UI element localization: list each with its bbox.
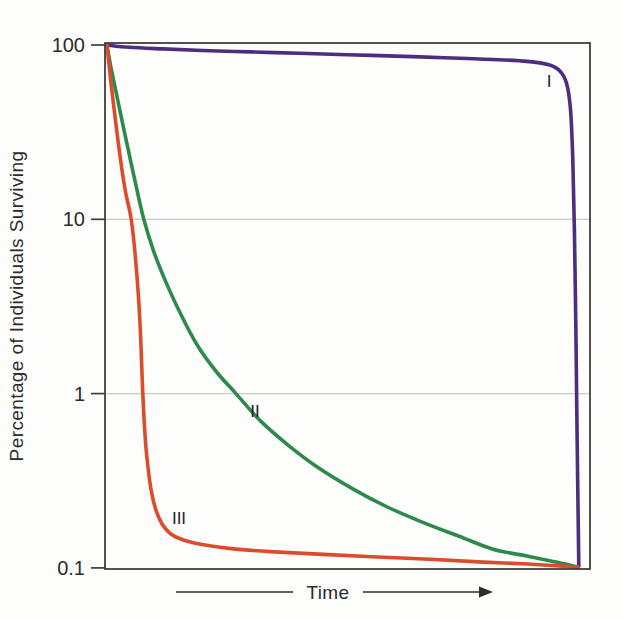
curve-type-II bbox=[107, 45, 578, 567]
y-tick-label: 10 bbox=[63, 208, 85, 230]
survivorship-chart: 1001010.1 IIIIII Percentage of Individua… bbox=[0, 0, 623, 618]
y-axis-ticks: 1001010.1 bbox=[52, 34, 105, 579]
curve-label-II: II bbox=[250, 402, 259, 421]
x-axis-title: Time bbox=[306, 582, 349, 603]
y-tick-label: 0.1 bbox=[57, 557, 85, 579]
curve-label-III: III bbox=[172, 509, 186, 528]
right-arrowhead-icon bbox=[479, 587, 493, 598]
survivorship-curve-figure: 1001010.1 IIIIII Percentage of Individua… bbox=[0, 0, 623, 618]
x-axis-time-arrow: Time bbox=[176, 582, 493, 603]
curve-label-I: I bbox=[547, 72, 552, 91]
y-axis-title: Percentage of Individuals Surviving bbox=[6, 151, 27, 462]
y-tick-label: 1 bbox=[74, 383, 85, 405]
curve-labels: IIIIII bbox=[172, 72, 551, 528]
survivorship-curves bbox=[107, 45, 579, 567]
y-tick-label: 100 bbox=[52, 34, 85, 56]
